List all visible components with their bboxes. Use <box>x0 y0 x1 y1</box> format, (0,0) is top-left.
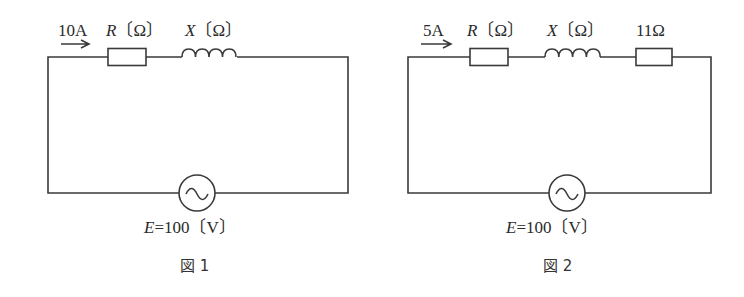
figure-1-current-arrow-icon <box>61 40 89 48</box>
figure-2-current-arrow-icon <box>421 40 451 48</box>
figure-2-11ohm-label: 11Ω <box>636 22 665 39</box>
figure-1-circuit <box>48 40 348 211</box>
value: 100 <box>526 218 552 237</box>
figure-1-wire <box>48 57 348 193</box>
figure-2-circuit <box>408 40 711 211</box>
figure-1-caption: 図 1 <box>180 259 209 274</box>
figure-2-resistor-r <box>470 49 508 66</box>
figure-2-inductor-x <box>545 49 600 57</box>
value: 100 <box>164 218 190 237</box>
symbol: X <box>547 21 557 40</box>
figure-1-resistor-r <box>108 49 146 66</box>
figure-2-caption: 図 2 <box>543 259 572 274</box>
figure-2-wire <box>408 57 711 193</box>
symbol: E <box>506 218 516 237</box>
figure-2-current-label: 5A <box>423 22 444 39</box>
symbol: R <box>106 21 116 40</box>
figure-1-source-label: E=100〔V〕 <box>144 219 236 236</box>
unit: 〔V〕 <box>551 218 597 237</box>
symbol: R <box>467 21 477 40</box>
symbol: E <box>144 218 154 237</box>
unit: 〔Ω〕 <box>477 21 524 40</box>
figure-1-inductor-x <box>182 49 236 57</box>
figure-1-resistor-label: R〔Ω〕 <box>106 22 163 39</box>
figure-2-source-label: E=100〔V〕 <box>506 219 598 236</box>
figure-2-inductor-label: X〔Ω〕 <box>547 22 604 39</box>
symbol: X <box>185 21 195 40</box>
figure-2-resistor-11ohm <box>636 49 672 66</box>
equals: = <box>516 218 526 237</box>
circuit-diagrams <box>0 0 744 297</box>
unit: 〔Ω〕 <box>116 21 163 40</box>
unit: 〔Ω〕 <box>557 21 604 40</box>
equals: = <box>154 218 164 237</box>
figure-2-resistor-label: R〔Ω〕 <box>467 22 524 39</box>
figure-1-current-label: 10A <box>58 22 87 39</box>
figure-1-inductor-label: X〔Ω〕 <box>185 22 242 39</box>
unit: 〔Ω〕 <box>195 21 242 40</box>
unit: 〔V〕 <box>189 218 235 237</box>
